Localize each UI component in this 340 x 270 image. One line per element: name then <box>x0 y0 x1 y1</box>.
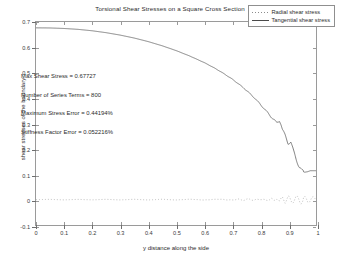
annotation-stiffness-factor-error: Stiffness Factor Error = 0.052216% <box>21 129 113 135</box>
x-tick-top <box>205 22 206 25</box>
x-tick-label: 0.9 <box>286 230 294 236</box>
annotation-max-stress-error: Maximum Stress Error = 0.44194% <box>21 110 113 116</box>
y-tick-right <box>313 73 316 74</box>
x-tick-inner <box>177 222 178 225</box>
y-tick-inner <box>36 201 39 202</box>
x-tick-inner <box>262 222 263 225</box>
legend-label-radial: Radial shear stress <box>272 9 321 15</box>
x-tick-mark <box>205 225 206 229</box>
y-tick-inner <box>36 176 39 177</box>
x-tick-label: 0.4 <box>145 230 153 236</box>
y-tick-right <box>313 48 316 49</box>
y-tick-label: 0.6 <box>22 45 30 51</box>
x-tick-inner <box>64 222 65 225</box>
y-tick-right <box>313 125 316 126</box>
x-tick-top <box>36 22 37 25</box>
x-tick-label: 0.6 <box>201 230 209 236</box>
x-tick-mark <box>149 225 150 229</box>
x-tick-mark <box>177 225 178 229</box>
annotation-max-shear-stress: Max Shear Stress = 0.67727 <box>21 73 113 79</box>
x-tick-mark <box>318 225 319 229</box>
x-tick-label: 0.8 <box>258 230 266 236</box>
x-tick-inner <box>92 222 93 225</box>
legend-item-tangential: Tangential shear stress <box>252 16 330 24</box>
x-tick-inner <box>149 222 150 225</box>
x-tick-top <box>177 22 178 25</box>
x-tick-label: 1 <box>316 230 319 236</box>
x-tick-label: 0 <box>34 230 37 236</box>
x-tick-mark <box>233 225 234 229</box>
y-tick-right <box>313 227 316 228</box>
y-tick-inner <box>36 150 39 151</box>
x-tick-mark <box>92 225 93 229</box>
x-tick-label: 0.2 <box>89 230 97 236</box>
y-tick-right <box>313 176 316 177</box>
x-tick-inner <box>121 222 122 225</box>
legend-label-tangential: Tangential shear stress <box>272 17 330 23</box>
x-tick-inner <box>205 222 206 225</box>
y-tick-label: 0.7 <box>22 19 30 25</box>
x-tick-label: 0.1 <box>60 230 68 236</box>
dotted-line-icon <box>252 9 269 15</box>
x-tick-mark <box>36 225 37 229</box>
x-tick-mark <box>64 225 65 229</box>
annotation-block: Max Shear Stress = 0.67727 Number of Ser… <box>21 73 113 147</box>
x-tick-inner <box>318 222 319 225</box>
chart-legend: Radial shear stress Tangential shear str… <box>248 5 335 27</box>
x-tick-top <box>121 22 122 25</box>
x-tick-mark <box>262 225 263 229</box>
series-radial-shear-stress <box>36 196 316 204</box>
x-tick-top <box>92 22 93 25</box>
x-tick-label: 0.5 <box>173 230 181 236</box>
x-tick-label: 0.7 <box>230 230 238 236</box>
y-tick-right <box>313 150 316 151</box>
legend-item-radial: Radial shear stress <box>252 8 330 16</box>
y-tick-label: -0.1 <box>20 224 30 230</box>
solid-line-icon <box>252 17 269 23</box>
y-tick-right <box>313 99 316 100</box>
x-axis-label: y distance along the side <box>35 245 317 251</box>
y-tick-inner <box>36 48 39 49</box>
x-tick-inner <box>233 222 234 225</box>
x-tick-top <box>233 22 234 25</box>
x-tick-label: 0.3 <box>117 230 125 236</box>
x-tick-mark <box>121 225 122 229</box>
x-tick-mark <box>290 225 291 229</box>
y-tick-label: 0 <box>27 198 30 204</box>
annotation-series-terms: Number of Series Terms = 800 <box>21 92 113 98</box>
x-tick-inner <box>290 222 291 225</box>
x-tick-inner <box>36 222 37 225</box>
figure-canvas: Torsional Shear Stresses on a Square Cro… <box>0 0 340 270</box>
y-tick-right <box>313 201 316 202</box>
x-tick-top <box>149 22 150 25</box>
x-tick-top <box>64 22 65 25</box>
